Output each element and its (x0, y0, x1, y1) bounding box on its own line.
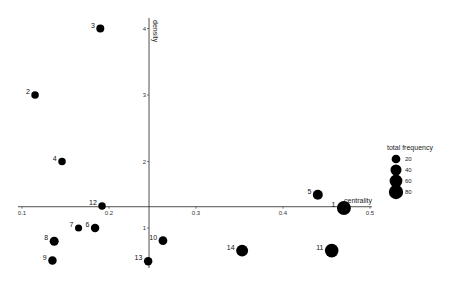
legend-label: 20 (405, 156, 412, 162)
x-tick-label: 0.1 (18, 210, 27, 216)
data-point (313, 190, 323, 200)
scatter-chart: 0.10.20.30.40.51234centralitydensity 123… (0, 0, 458, 286)
point-label: 7 (70, 221, 74, 228)
point-label: 13 (135, 254, 143, 261)
data-point (50, 237, 59, 246)
data-point (75, 224, 82, 231)
y-tick-label: 3 (143, 92, 147, 98)
data-point (31, 91, 38, 98)
data-point (48, 256, 56, 264)
point-label: 1 (332, 201, 336, 208)
legend-symbol (389, 185, 403, 199)
x-tick-label: 0.4 (279, 210, 288, 216)
data-points: 1234567891011121314 (26, 22, 351, 266)
legend-label: 40 (405, 167, 412, 173)
legend-symbol (390, 164, 401, 175)
axes: 0.10.20.30.40.51234centralitydensity (18, 18, 375, 268)
point-label: 10 (149, 234, 157, 241)
data-point (58, 158, 65, 165)
point-label: 3 (91, 22, 95, 29)
data-point (325, 244, 339, 258)
y-axis-label: density (151, 20, 159, 43)
point-label: 4 (53, 155, 57, 162)
y-tick-label: 4 (143, 26, 147, 32)
point-label: 8 (44, 234, 48, 241)
y-tick-label: 2 (143, 159, 147, 165)
x-tick-label: 0.3 (192, 210, 201, 216)
point-label: 5 (307, 188, 311, 195)
legend-title: total frequency (387, 144, 433, 152)
x-tick-label: 0.5 (366, 210, 375, 216)
data-point (159, 236, 168, 245)
legend: total frequency20406080 (387, 144, 433, 199)
data-point (144, 257, 152, 265)
point-label: 9 (43, 254, 47, 261)
x-tick-label: 0.2 (105, 210, 114, 216)
point-label: 6 (85, 221, 89, 228)
data-point (236, 245, 248, 257)
point-label: 14 (227, 244, 235, 251)
legend-label: 60 (405, 178, 412, 184)
legend-label: 80 (405, 189, 412, 195)
data-point (337, 201, 351, 215)
legend-symbol (392, 155, 401, 164)
point-label: 2 (26, 88, 30, 95)
point-label: 11 (316, 244, 323, 251)
y-tick-label: 1 (143, 225, 147, 231)
data-point (91, 224, 99, 232)
data-point (98, 202, 105, 209)
point-label: 12 (89, 199, 97, 206)
data-point (96, 24, 104, 32)
